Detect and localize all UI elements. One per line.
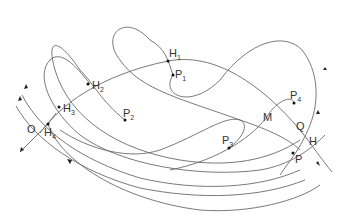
point-h3 bbox=[58, 106, 61, 109]
top-loop-curve bbox=[113, 27, 300, 150]
label-q: Q bbox=[296, 120, 305, 132]
arrow-icon bbox=[323, 67, 327, 70]
label-p4: P4 bbox=[290, 89, 301, 103]
p4-loop-curve bbox=[170, 99, 294, 170]
label-h: H bbox=[309, 135, 317, 147]
label-h4: H4 bbox=[44, 126, 56, 140]
arrow-icon bbox=[316, 161, 320, 166]
label-o: O bbox=[27, 123, 36, 135]
arrow-icon bbox=[316, 110, 320, 114]
point-h1 bbox=[167, 60, 170, 63]
point-h2 bbox=[87, 83, 90, 86]
arrow-icon bbox=[20, 147, 24, 152]
arrow-icon bbox=[18, 96, 22, 101]
label-p1: P1 bbox=[175, 68, 186, 82]
label-h2: H2 bbox=[92, 79, 104, 93]
label-p3: P3 bbox=[222, 134, 233, 148]
label-p: P bbox=[295, 153, 302, 165]
phase-portrait-diagram: H1 P1 H2 H3 H4 O P2 P3 P4 M Q H P bbox=[0, 0, 340, 221]
label-p2: P2 bbox=[123, 107, 134, 121]
label-m: M bbox=[263, 111, 272, 123]
label-h1: H1 bbox=[169, 47, 181, 61]
p3-loop-curve bbox=[60, 119, 244, 154]
point-p4 bbox=[293, 102, 296, 105]
arrow-icon bbox=[24, 84, 28, 89]
curve-family-5 bbox=[48, 124, 320, 211]
